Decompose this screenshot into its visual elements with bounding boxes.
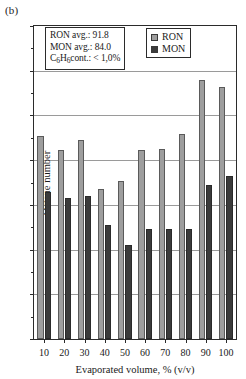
- bar-ron-20: [58, 150, 64, 339]
- figure: (b) 707580859095100105 Octane number 102…: [0, 0, 246, 379]
- x-tick-mark: [44, 339, 45, 343]
- annotation-line-ron-avg: RON avg.: 91.8: [50, 30, 120, 42]
- bar-ron-40: [98, 189, 104, 339]
- bar-ron-70: [159, 149, 165, 339]
- legend-label: MON: [162, 43, 185, 55]
- y-tick-mark: [30, 294, 34, 295]
- y-tick-mark: [30, 205, 34, 206]
- gridline: [34, 71, 236, 72]
- bar-ron-30: [78, 140, 84, 339]
- legend-item-mon: MON: [151, 43, 185, 55]
- bar-mon-80: [186, 229, 192, 339]
- bar-ron-60: [138, 150, 144, 339]
- legend-swatch-icon: [151, 46, 158, 53]
- bar-ron-80: [179, 134, 185, 339]
- legend: RONMON: [146, 28, 191, 58]
- bar-mon-40: [105, 225, 111, 339]
- y-tick-mark-minor: [31, 48, 34, 49]
- x-tick-mark: [85, 339, 86, 343]
- y-tick-mark: [30, 71, 34, 72]
- y-tick-mark: [30, 339, 34, 340]
- x-tick-mark: [226, 339, 227, 343]
- y-tick-mark-minor: [31, 227, 34, 228]
- x-tick-mark: [145, 339, 146, 343]
- x-tick-mark: [125, 339, 126, 343]
- gridline: [34, 160, 236, 161]
- y-tick-mark-minor: [31, 93, 34, 94]
- x-tick-label: 100: [211, 347, 241, 358]
- bar-mon-10: [45, 192, 51, 339]
- annotation-line-mon-avg: MON avg.: 84.0: [50, 42, 120, 54]
- plot-area: 707580859095100105 Octane number 1020304…: [33, 25, 237, 340]
- panel-label: (b): [5, 4, 18, 16]
- y-tick-mark-minor: [31, 317, 34, 318]
- legend-label: RON: [162, 31, 183, 43]
- bar-mon-50: [125, 245, 131, 339]
- bar-mon-30: [85, 196, 91, 339]
- annotation-benzene-h: H: [60, 53, 67, 63]
- x-tick-mark: [105, 339, 106, 343]
- bar-mon-100: [226, 176, 232, 339]
- y-tick-mark: [30, 250, 34, 251]
- bar-ron-50: [118, 181, 124, 339]
- x-tick-mark: [206, 339, 207, 343]
- x-tick-mark: [165, 339, 166, 343]
- annotation-box: RON avg.: 91.8 MON avg.: 84.0 C6H6cont.:…: [45, 27, 125, 70]
- bar-mon-90: [206, 185, 212, 339]
- annotation-line-benzene: C6H6cont.: < 1,0%: [50, 53, 120, 67]
- bar-mon-60: [146, 229, 152, 339]
- x-axis-label: Evaporated volume, % (v/v): [34, 364, 236, 375]
- y-tick-mark: [30, 160, 34, 161]
- annotation-benzene-text: cont.: < 1,0%: [70, 53, 120, 63]
- y-tick-mark-minor: [31, 272, 34, 273]
- y-tick-mark: [30, 115, 34, 116]
- gridline: [34, 115, 236, 116]
- x-tick-mark: [64, 339, 65, 343]
- bar-ron-100: [219, 87, 225, 339]
- legend-item-ron: RON: [151, 31, 185, 43]
- bar-ron-90: [199, 80, 205, 339]
- y-tick-mark: [30, 26, 34, 27]
- legend-swatch-icon: [151, 34, 158, 41]
- bar-ron-10: [37, 136, 43, 339]
- bar-mon-20: [65, 198, 71, 339]
- y-tick-mark-minor: [31, 183, 34, 184]
- y-tick-mark-minor: [31, 138, 34, 139]
- x-tick-mark: [186, 339, 187, 343]
- bar-mon-70: [166, 229, 172, 339]
